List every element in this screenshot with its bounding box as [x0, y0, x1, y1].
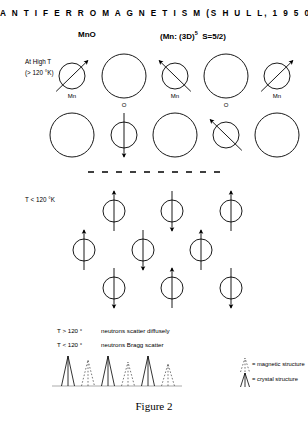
- atom-label-mn: Mn: [62, 93, 82, 99]
- atom-mn: [220, 191, 242, 231]
- atom-mn: [220, 268, 242, 308]
- peak-crystal: [62, 356, 75, 386]
- atom-o: [153, 113, 197, 157]
- atom-mn: [103, 268, 125, 308]
- diffraction-peaks: [52, 356, 182, 386]
- atom-mn: [103, 191, 125, 231]
- atom-o: [255, 113, 299, 157]
- atom-mn: [161, 191, 183, 231]
- atom-mn: [161, 268, 183, 308]
- legend-markers: [241, 358, 250, 387]
- atom-mn: [261, 61, 293, 92]
- atom-o: [102, 54, 146, 98]
- atom-mn: [159, 61, 191, 92]
- peak-magnetic: [122, 362, 135, 386]
- atom-mn: [111, 113, 137, 157]
- atom-label-o: O: [114, 102, 134, 108]
- figure-container: A N T I F E R R O M A G N E T I S M (S H…: [0, 0, 308, 426]
- dotted-peak-icon: [241, 358, 250, 372]
- peak-crystal: [142, 356, 155, 386]
- atom-label-o: O: [216, 102, 236, 108]
- peak-magnetic: [162, 364, 175, 386]
- peak-magnetic: [82, 360, 95, 386]
- atom-mn: [56, 61, 88, 92]
- atom-mn: [132, 230, 154, 270]
- atom-label-mn: Mn: [267, 93, 287, 99]
- solid-peak-icon: [241, 373, 250, 387]
- atom-label-mn: Mn: [165, 93, 185, 99]
- atom-mn: [210, 120, 242, 151]
- atom-mn: [190, 230, 212, 270]
- atom-mn: [73, 230, 95, 270]
- peak-crystal: [102, 356, 115, 386]
- diagram-artwork: [0, 0, 308, 426]
- atom-o: [50, 113, 94, 157]
- atom-o: [204, 54, 248, 98]
